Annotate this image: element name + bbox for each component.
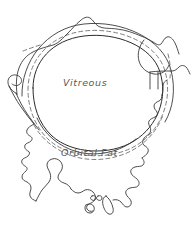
- orbital-fat-right-lower-jag: [113, 158, 144, 207]
- dashed-membrane: [28, 30, 168, 155]
- label-vitreous: Vitreous: [63, 77, 107, 88]
- orbital-fat-left-inlet: [36, 159, 71, 201]
- orbital-fat-blob-b: [97, 196, 103, 201]
- sketch-canvas: Vitreous Orbital Fat: [0, 0, 194, 227]
- label-orbital-fat: Orbital Fat: [61, 147, 119, 158]
- left-muscle-tail-inner: [16, 93, 39, 130]
- globe-outline: [33, 35, 163, 151]
- orbital-sketch-figure: Vitreous Orbital Fat: [0, 0, 194, 227]
- orbital-fat-strand-d: [103, 196, 114, 214]
- right-superior-notch: [153, 37, 179, 54]
- orbital-fat-right-border: [142, 95, 162, 158]
- left-muscle-spur: [8, 75, 22, 94]
- orbital-fat-left-border: [22, 124, 36, 201]
- outer-sclera-line: [22, 23, 173, 122]
